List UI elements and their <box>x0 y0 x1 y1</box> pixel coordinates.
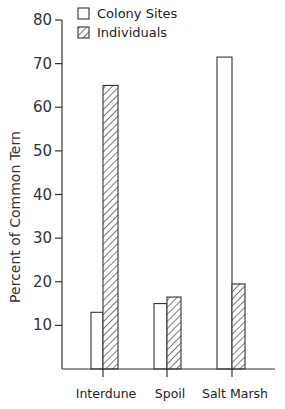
bar-colony-sites <box>154 304 167 369</box>
y-axis: 1020304050607080 <box>33 11 62 369</box>
y-axis-label: Percent of Common Tern <box>7 131 23 303</box>
bar-chart: 1020304050607080 InterduneSpoilSalt Mars… <box>0 0 285 409</box>
y-tick-label: 10 <box>33 316 52 334</box>
x-tick-label: Salt Marsh <box>202 386 268 401</box>
bar-individuals <box>232 284 245 369</box>
bar-individuals <box>103 85 118 369</box>
x-tick-label: Interdune <box>76 386 137 401</box>
legend-label-colony-sites: Colony Sites <box>97 6 178 21</box>
x-axis: InterduneSpoilSalt Marsh <box>62 369 275 401</box>
x-tick-label: Spoil <box>155 386 185 401</box>
y-tick-label: 60 <box>33 98 52 116</box>
y-tick-label: 70 <box>33 55 52 73</box>
y-tick-label: 50 <box>33 142 52 160</box>
legend-label-individuals: Individuals <box>97 25 167 40</box>
bar-colony-sites <box>217 57 232 369</box>
y-tick-label: 40 <box>33 186 52 204</box>
legend-swatch-individuals <box>78 27 89 38</box>
y-tick-label: 30 <box>33 229 52 247</box>
bars <box>91 57 245 369</box>
bar-colony-sites <box>91 312 103 369</box>
bar-individuals <box>167 297 181 369</box>
y-tick-label: 20 <box>33 273 52 291</box>
legend-swatch-colony-sites <box>78 8 89 19</box>
legend: Colony SitesIndividuals <box>78 6 178 40</box>
y-tick-label: 80 <box>33 11 52 29</box>
